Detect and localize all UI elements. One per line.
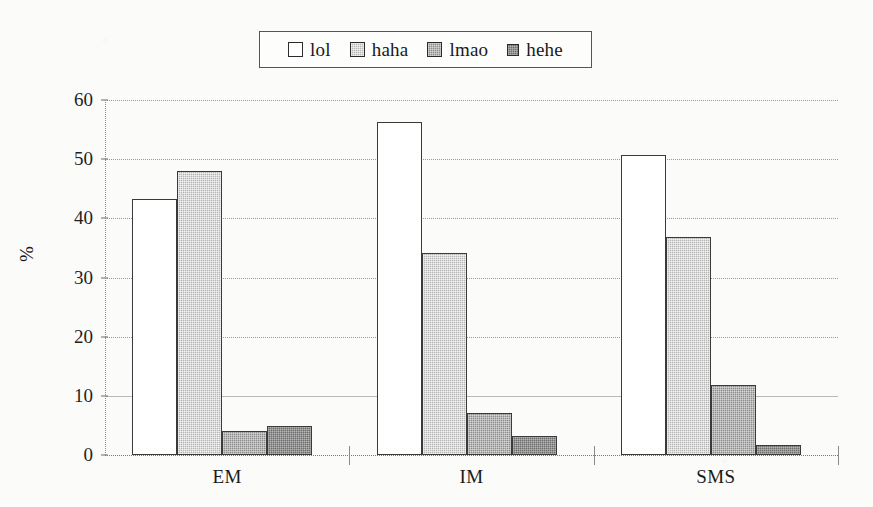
legend-item-haha: haha — [350, 40, 409, 59]
y-tick-label: 20 — [47, 326, 93, 348]
legend-label-lmao: lmao — [449, 40, 488, 59]
bar-em-haha — [177, 171, 222, 455]
legend-label-lol: lol — [310, 40, 331, 59]
legend-item-hehe: hehe — [507, 40, 563, 59]
legend-item-lmao: lmao — [427, 40, 488, 59]
bar-im-haha — [422, 253, 467, 455]
bar-chart: lol haha lmao hehe % 0102030405060 EMIMS… — [0, 0, 873, 507]
bar-sms-hehe — [756, 445, 801, 455]
legend-swatch-haha-icon — [350, 42, 365, 57]
y-tick-label: 40 — [47, 207, 93, 229]
chart-legend: lol haha lmao hehe — [259, 31, 592, 68]
category-separator — [594, 446, 595, 465]
legend-swatch-hehe-icon — [507, 44, 519, 56]
bar-sms-haha — [666, 237, 711, 455]
bar-em-lmao — [222, 431, 267, 455]
bar-sms-lmao — [711, 385, 756, 455]
bar-sms-lol — [621, 155, 666, 455]
category-label-im: IM — [459, 466, 483, 488]
bar-im-hehe — [512, 436, 557, 455]
bar-im-lmao — [467, 413, 512, 455]
plot-area — [105, 100, 838, 455]
y-tick-label: 50 — [47, 148, 93, 170]
legend-item-lol: lol — [288, 40, 331, 59]
legend-label-hehe: hehe — [526, 40, 563, 59]
y-axis-title: % — [16, 246, 38, 262]
legend-swatch-lol-icon — [288, 42, 303, 57]
category-label-em: EM — [213, 466, 242, 488]
legend-swatch-lmao-icon — [427, 42, 442, 57]
bar-im-lol — [377, 122, 422, 455]
y-tick-label: 10 — [47, 385, 93, 407]
y-tick-label: 30 — [47, 267, 93, 289]
y-tick-label: 60 — [47, 89, 93, 111]
x-axis-line — [105, 455, 838, 456]
x-axis-end-tick — [838, 446, 839, 465]
category-separator — [349, 446, 350, 465]
bar-em-lol — [132, 199, 177, 455]
bar-em-hehe — [267, 426, 312, 455]
legend-label-haha: haha — [372, 40, 409, 59]
category-label-sms: SMS — [696, 466, 735, 488]
y-tick-label: 0 — [47, 444, 93, 466]
